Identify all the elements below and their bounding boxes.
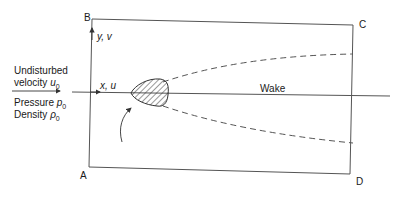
body-shape <box>131 79 168 106</box>
wake-label: Wake <box>260 83 285 95</box>
freestream-label-density: Density ρ0 <box>14 109 60 125</box>
freestream-label-velocity: velocity u0 <box>14 77 60 93</box>
corner-label-d: D <box>356 176 363 188</box>
x-axis-line <box>72 92 390 96</box>
corner-label-b: B <box>84 12 91 24</box>
y-axis-label: y, v <box>97 31 112 43</box>
corner-label-a: A <box>80 170 87 182</box>
x-axis-label: x, u <box>100 80 116 92</box>
curved-arrow <box>120 108 131 142</box>
wake-boundary-lower <box>163 106 353 143</box>
wake-boundary-upper <box>163 54 353 82</box>
control-volume-box <box>89 19 353 174</box>
corner-label-c: C <box>359 19 366 31</box>
freestream-label-undisturbed: Undisturbed <box>14 65 68 77</box>
